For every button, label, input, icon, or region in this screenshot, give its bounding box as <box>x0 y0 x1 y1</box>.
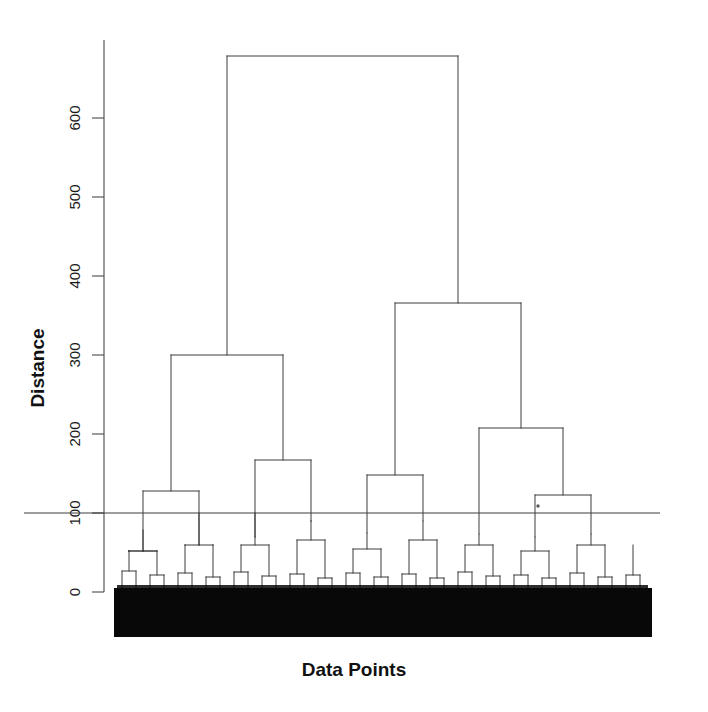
y-tick-label-300: 300 <box>66 342 83 367</box>
ink-speck <box>536 504 539 507</box>
leaf-label-band <box>114 588 652 637</box>
y-tick-label-0: 0 <box>66 588 83 596</box>
dendrogram-figure: 0 100 200 300 400 500 600 Distance <box>0 0 708 712</box>
y-tick-label-500: 500 <box>66 184 83 209</box>
x-axis-title: Data Points <box>302 659 407 680</box>
y-tick-label-200: 200 <box>66 421 83 446</box>
y-axis-title: Distance <box>27 328 48 407</box>
y-tick-label-400: 400 <box>66 263 83 288</box>
leaf-label-band-fringe <box>117 585 648 590</box>
dendrogram-plot: 0 100 200 300 400 500 600 Distance <box>0 0 708 712</box>
y-tick-label-600: 600 <box>66 105 83 130</box>
